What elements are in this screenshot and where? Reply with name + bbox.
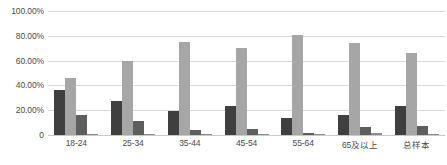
- bar-series-2-18-24[interactable]: [65, 78, 76, 135]
- bar-series-4-45-54[interactable]: [258, 134, 269, 135]
- bar-group: [275, 11, 332, 135]
- bar-series-3-45-54[interactable]: [247, 129, 258, 135]
- x-tick-label: 25-34: [105, 138, 162, 160]
- x-tick-label: 35-44: [161, 138, 218, 160]
- bar-series-4-55-64[interactable]: [314, 134, 325, 135]
- bar-series-2-总样本[interactable]: [406, 53, 417, 135]
- bar-series-2-55-64[interactable]: [292, 35, 303, 135]
- bar-series-1-35-44[interactable]: [168, 111, 179, 135]
- y-axis: 100.00%80.00%60.00%40.00%20.00%0: [0, 0, 48, 165]
- y-tick-label: 100.00%: [11, 6, 44, 16]
- x-tick-label: 65及以上: [332, 138, 389, 160]
- bar-series-3-总样本[interactable]: [417, 126, 428, 135]
- bar-series-3-25-34[interactable]: [133, 121, 144, 135]
- bar-series-1-总样本[interactable]: [395, 106, 406, 135]
- bar-group: [218, 11, 275, 135]
- x-axis: 18-2425-3435-4445-5455-6465及以上总样本: [48, 138, 445, 160]
- bar-series-4-35-44[interactable]: [201, 134, 212, 135]
- bar-series-4-总样本[interactable]: [428, 134, 439, 135]
- bar-series-2-25-34[interactable]: [122, 61, 133, 135]
- y-tick-label: 0: [39, 130, 44, 140]
- bar-series-4-18-24[interactable]: [87, 134, 98, 135]
- bar-chart: 100.00%80.00%60.00%40.00%20.00%0 18-2425…: [0, 0, 447, 165]
- gridline: [48, 135, 445, 136]
- bar-group: [388, 11, 445, 135]
- bar-groups: [48, 11, 445, 135]
- bar-series-2-45-54[interactable]: [236, 48, 247, 135]
- x-tick-label: 总样本: [388, 138, 445, 160]
- bar-series-1-55-64[interactable]: [281, 118, 292, 135]
- bar-group: [105, 11, 162, 135]
- bar-series-3-18-24[interactable]: [76, 115, 87, 135]
- bar-series-2-35-44[interactable]: [179, 42, 190, 135]
- bar-series-3-35-44[interactable]: [190, 130, 201, 135]
- bar-series-4-25-34[interactable]: [144, 134, 155, 135]
- bar-series-1-18-24[interactable]: [54, 90, 65, 135]
- x-tick-label: 18-24: [48, 138, 105, 160]
- y-tick-label: 80.00%: [16, 31, 44, 41]
- bar-series-1-25-34[interactable]: [111, 101, 122, 135]
- bar-series-2-65及以上[interactable]: [349, 43, 360, 135]
- bar-group: [332, 11, 389, 135]
- x-tick-label: 55-64: [275, 138, 332, 160]
- y-tick-label: 60.00%: [16, 56, 44, 66]
- bar-series-3-55-64[interactable]: [303, 133, 314, 135]
- bar-series-3-65及以上[interactable]: [360, 127, 371, 135]
- y-tick-label: 40.00%: [16, 80, 44, 90]
- bar-series-1-45-54[interactable]: [225, 106, 236, 135]
- bar-series-4-65及以上[interactable]: [371, 133, 382, 135]
- bar-series-1-65及以上[interactable]: [338, 115, 349, 135]
- y-tick-label: 20.00%: [16, 105, 44, 115]
- bar-group: [48, 11, 105, 135]
- bar-group: [161, 11, 218, 135]
- x-tick-label: 45-54: [218, 138, 275, 160]
- plot-area: [48, 11, 445, 135]
